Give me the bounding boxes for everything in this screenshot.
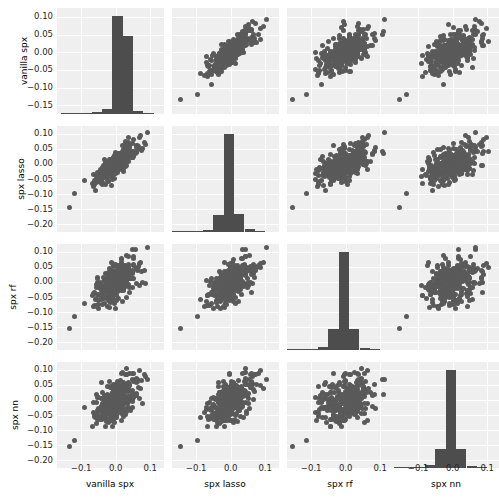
scatter-point [178, 326, 183, 331]
scatter-point [220, 59, 225, 64]
scatter-point [336, 419, 341, 424]
scatter-point [209, 82, 214, 87]
scatter-point [446, 260, 451, 265]
y-tick-label: −0.20 [27, 456, 53, 465]
scatter-point [473, 32, 478, 37]
scatter-point [365, 135, 370, 140]
panel-spx-nn-vs-spx-lasso [394, 126, 499, 232]
scatter-point [338, 412, 343, 417]
scatter-point [214, 276, 219, 281]
scatter-point [137, 283, 142, 288]
scatter-point [290, 205, 295, 210]
scatter-point [321, 183, 326, 188]
scatter-point [452, 174, 457, 179]
scatter-point [447, 69, 452, 74]
scatter-points [394, 8, 499, 114]
scatter-point [456, 247, 461, 252]
scatter-point [108, 385, 113, 390]
scatter-point [480, 290, 485, 295]
scatter-point [451, 146, 456, 151]
scatter-point [222, 424, 227, 429]
scatter-point [428, 68, 433, 73]
panel-spx-lasso-vs-spx-nn [172, 362, 279, 468]
histogram-bar [245, 229, 255, 232]
scatter-point [258, 265, 263, 270]
scatter-points [287, 362, 394, 468]
scatter-point [138, 386, 143, 391]
scatter-point [142, 268, 147, 273]
scatter-point [359, 56, 364, 61]
scatter-point [220, 412, 225, 417]
histogram-bar [203, 230, 213, 232]
scatter-point [118, 276, 123, 281]
scatter-point [470, 297, 475, 302]
scatter-point [102, 301, 107, 306]
scatter-point [427, 164, 432, 169]
x-tick-label: −0.1 [403, 464, 433, 473]
scatter-point [434, 284, 439, 289]
scatter-point [382, 17, 387, 22]
scatter-point [339, 25, 344, 30]
scatter-point [240, 247, 245, 252]
scatter-point [123, 151, 128, 156]
scatter-point [236, 276, 241, 281]
y-axis-label-row-1: spx lasso [0, 126, 14, 232]
scatter-point [239, 256, 244, 261]
scatter-point [347, 155, 352, 160]
scatter-point [82, 405, 87, 410]
scatter-point [442, 268, 447, 273]
scatter-point [357, 46, 362, 51]
scatter-point [178, 97, 183, 102]
scatter-point [353, 163, 358, 168]
scatter-point [251, 397, 256, 402]
scatter-point [480, 33, 485, 38]
scatter-point [449, 269, 454, 274]
histogram-bar [328, 329, 338, 350]
scatter-point [443, 155, 448, 160]
scatter-point [290, 444, 295, 449]
scatter-point [240, 371, 245, 376]
scatter-point [104, 278, 109, 283]
scatter-point [447, 50, 452, 55]
histogram-bar [308, 349, 318, 351]
scatter-point [338, 59, 343, 64]
scatter-point [325, 161, 330, 166]
scatter-point [339, 424, 344, 429]
scatter-point [218, 390, 223, 395]
scatter-point [404, 314, 409, 319]
scatter-point [304, 191, 309, 196]
scatter-point [145, 130, 150, 135]
scatter-point [434, 59, 439, 64]
scatter-point [431, 276, 436, 281]
scatter-point [441, 33, 446, 38]
scatter-point [320, 55, 325, 60]
scatter-point [480, 280, 485, 285]
scatter-point [198, 297, 203, 302]
x-tick-label: 0.1 [365, 464, 395, 473]
y-tick-label: −0.15 [27, 205, 53, 214]
scatter-point [441, 82, 446, 87]
scatter-point [82, 178, 87, 183]
x-tick-label: 0.0 [216, 464, 246, 473]
scatter-point [258, 368, 263, 373]
y-tick-label: 0.05 [34, 262, 53, 271]
scatter-point [127, 285, 132, 290]
scatter-point [484, 261, 489, 266]
scatter-points [287, 126, 394, 232]
scatter-point [72, 191, 77, 196]
scatter-point [145, 245, 150, 250]
scatter-point [356, 21, 361, 26]
histogram-bar [92, 112, 102, 114]
x-axis-label-col-1: spx lasso [165, 479, 285, 489]
scatter-point [452, 285, 457, 290]
panel-spx-lasso-vs-spx-rf [172, 244, 279, 350]
scatter-point [214, 424, 219, 429]
scatter-point [124, 372, 129, 377]
y-tick-label: −0.15 [27, 323, 53, 332]
scatter-point [347, 45, 352, 50]
scatter-point [130, 399, 135, 404]
scatter-point [354, 380, 359, 385]
scatter-point [124, 295, 129, 300]
scatter-point [212, 292, 217, 297]
scatter-point [127, 290, 132, 295]
